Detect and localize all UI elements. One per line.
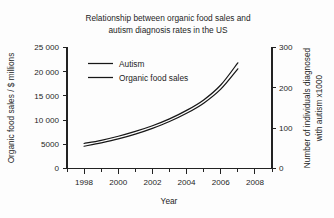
left-y-tick-label-0: 0 <box>54 164 59 173</box>
chart-title-line-2: autism diagnosis rates in the US <box>109 25 228 35</box>
left-y-axis-tick-labels: 0 5000 10 000 15 000 20 000 25 000 <box>34 43 59 173</box>
right-y-axis-ticks <box>272 48 276 169</box>
right-y-axis-tick-labels: 0 100 200 300 <box>279 43 293 173</box>
left-y-tick-label-10000: 10 000 <box>34 116 59 125</box>
x-tick-label-2002: 2002 <box>143 178 162 187</box>
chart-figure: Relationship between organic food sales … <box>0 0 334 218</box>
chart-title-line-1: Relationship between organic food sales … <box>85 13 251 23</box>
left-y-axis-title: Organic food sales / $ millions <box>6 53 16 164</box>
left-y-axis-ticks <box>63 48 67 169</box>
line-chart: Relationship between organic food sales … <box>0 0 334 218</box>
left-y-tick-label-20000: 20 000 <box>34 68 59 77</box>
x-tick-label-2004: 2004 <box>178 178 197 187</box>
left-y-tick-label-25000: 25 000 <box>34 43 59 52</box>
right-y-axis-title-line-2: with autism x1000 <box>314 74 324 142</box>
legend-label-organic-food-sales: Organic food sales <box>119 73 188 83</box>
x-tick-label-2008: 2008 <box>246 178 265 187</box>
legend-label-autism: Autism <box>119 59 144 69</box>
right-y-tick-label-300: 300 <box>279 43 293 52</box>
chart-legend: Autism Organic food sales <box>88 59 188 83</box>
x-tick-label-2006: 2006 <box>212 178 231 187</box>
right-y-axis-title-line-1: Number of individuals diagnosed <box>302 47 312 168</box>
x-tick-label-1998: 1998 <box>75 178 94 187</box>
right-y-tick-label-200: 200 <box>279 84 293 93</box>
left-y-tick-label-15000: 15 000 <box>34 92 59 101</box>
right-y-tick-label-100: 100 <box>279 124 293 133</box>
x-tick-label-2000: 2000 <box>109 178 128 187</box>
left-y-tick-label-5000: 5000 <box>41 140 60 149</box>
right-y-tick-label-0: 0 <box>279 164 284 173</box>
x-axis-title: Year <box>161 196 178 206</box>
x-axis-tick-labels: 1998 2000 2002 2004 2006 2008 <box>75 178 264 187</box>
